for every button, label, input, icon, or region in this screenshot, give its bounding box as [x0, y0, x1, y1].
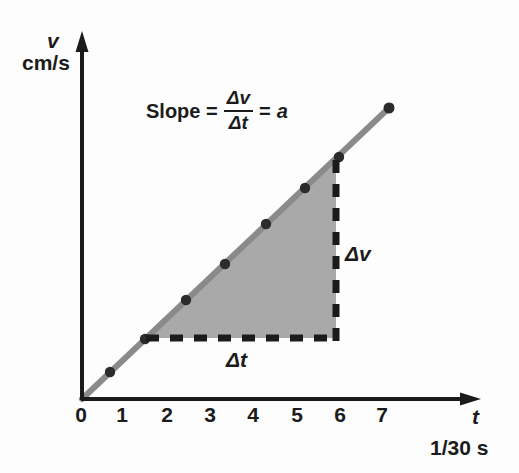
data-point [105, 367, 115, 377]
x-tick-label-0: 0 [75, 404, 87, 425]
velocity-time-graph-figure: v cm/s t 1/30 s 0 1 2 3 4 5 6 7 Slope = … [0, 0, 519, 473]
slope-denominator: Δt [226, 112, 251, 134]
x-axis-unit-label: 1/30 s [430, 437, 488, 458]
data-point [181, 295, 191, 305]
x-tick-label-3: 3 [204, 404, 216, 425]
x-tick-label-5: 5 [291, 404, 303, 425]
x-tick-label-6: 6 [334, 404, 346, 425]
data-point [300, 183, 310, 193]
slope-equals-sign: = [259, 101, 271, 121]
x-tick-label-4: 4 [247, 404, 259, 425]
data-point [261, 219, 271, 229]
x-axis-arrowhead [460, 393, 481, 406]
y-axis-unit-label: cm/s [22, 52, 70, 73]
delta-v-label: Δv [345, 243, 371, 264]
data-point [384, 103, 395, 114]
x-tick-label-7: 7 [376, 404, 388, 425]
slope-annotation: Slope = Δv Δt = a [146, 88, 288, 133]
delta-t-label: Δt [226, 349, 247, 370]
data-point [220, 259, 230, 269]
x-tick-label-1: 1 [116, 404, 128, 425]
slope-fraction: Δv Δt [224, 88, 253, 133]
slope-result-symbol: a [277, 101, 288, 121]
slope-numerator: Δv [224, 88, 253, 112]
y-axis-variable-label: v [47, 30, 59, 51]
x-tick-label-2: 2 [161, 404, 173, 425]
y-axis-arrowhead [76, 31, 89, 52]
slope-lead-text: Slope = [146, 101, 218, 121]
x-axis-variable-label: t [472, 406, 479, 427]
